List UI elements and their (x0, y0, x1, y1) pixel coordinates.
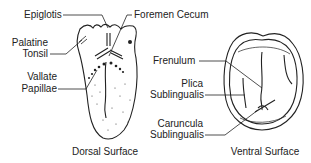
label-plica-sublingualis: Sublingualis (150, 89, 203, 100)
label-epiglotis: Epiglotis (24, 9, 62, 20)
label-foremen-cecum: Foremen Cecum (134, 9, 208, 20)
label-caruncula-sublingualis: Sublingualis (150, 129, 203, 140)
caption-ventral-surface: Ventral Surface (220, 146, 310, 157)
label-plica: Plica (150, 78, 203, 89)
label-tonsil: Tonsil (0, 48, 48, 59)
label-palatine: Palatine (0, 37, 48, 48)
label-papillae: Papillae (0, 83, 57, 94)
caption-dorsal-surface: Dorsal Surface (60, 146, 150, 157)
label-frenulum: Frenulum (153, 55, 195, 66)
fungiform-dots (91, 83, 130, 130)
label-caruncula: Caruncula (150, 118, 203, 129)
ventral-mouth (224, 33, 303, 130)
label-vallate: Vallate (0, 71, 57, 82)
